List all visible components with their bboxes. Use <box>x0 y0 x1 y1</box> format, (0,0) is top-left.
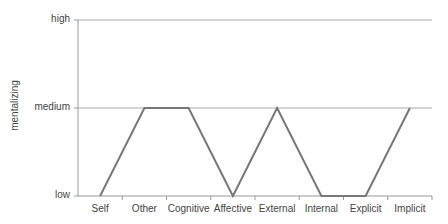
y-axis-title: mentalizing <box>9 66 20 146</box>
x-tick-label: Self <box>75 203 125 214</box>
x-tick-label: Affective <box>208 203 258 214</box>
y-tick-high: high <box>10 13 70 24</box>
mentalizing-line-chart: high medium low mentalizing SelfOtherCog… <box>0 0 448 224</box>
x-tick-label: Cognitive <box>164 203 214 214</box>
x-tick-label: Internal <box>296 203 346 214</box>
x-tick-label: Implicit <box>385 203 435 214</box>
y-tick-low: low <box>10 189 70 200</box>
x-tick-label: External <box>252 203 302 214</box>
data-line <box>100 108 410 196</box>
x-ticks <box>122 196 432 200</box>
x-tick-label: Explicit <box>341 203 391 214</box>
x-tick-label: Other <box>119 203 169 214</box>
